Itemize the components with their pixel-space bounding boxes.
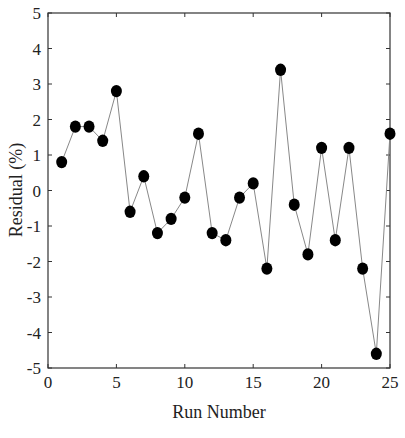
data-point — [193, 128, 204, 140]
data-point — [166, 213, 177, 225]
data-point — [289, 199, 300, 211]
data-point — [97, 135, 108, 147]
residual-chart: 543210-1-2-3-4-5 0510152025 Run Number R… — [0, 0, 405, 438]
data-point — [234, 191, 245, 203]
data-point — [261, 262, 272, 274]
y-tick-label: 3 — [33, 75, 42, 94]
y-tick-label: 5 — [33, 4, 42, 23]
x-tick-label: 25 — [382, 373, 399, 392]
data-point — [152, 227, 163, 239]
data-point — [70, 120, 81, 132]
y-tick-label: 2 — [33, 111, 42, 130]
data-point — [111, 85, 122, 97]
y-tick-label: 1 — [33, 146, 42, 165]
plot-frame — [48, 13, 390, 368]
residual-markers — [56, 64, 395, 360]
y-tick-label: -1 — [27, 217, 41, 236]
data-point — [138, 170, 149, 182]
y-tick-label: 4 — [33, 40, 42, 59]
data-point — [84, 120, 95, 132]
data-point — [385, 128, 396, 140]
x-tick-label: 0 — [44, 373, 53, 392]
data-point — [56, 156, 67, 168]
x-tick-label: 10 — [176, 373, 193, 392]
y-tick-label: -4 — [27, 324, 42, 343]
axes-box — [48, 13, 390, 368]
x-tick-label: 20 — [313, 373, 330, 392]
y-tick-label: -2 — [27, 253, 41, 272]
y-tick-label: 0 — [33, 182, 42, 201]
data-point — [125, 206, 136, 218]
x-axis-ticks: 0510152025 — [44, 13, 399, 392]
y-axis-ticks: 543210-1-2-3-4-5 — [27, 4, 390, 378]
data-point — [179, 191, 190, 203]
data-point — [343, 142, 354, 154]
series-polyline — [62, 70, 390, 354]
x-tick-label: 5 — [112, 373, 121, 392]
data-point — [330, 234, 341, 246]
residual-line — [62, 70, 390, 354]
data-point — [248, 177, 259, 189]
data-point — [357, 262, 368, 274]
data-point — [220, 234, 231, 246]
y-tick-label: -5 — [27, 359, 41, 378]
data-point — [207, 227, 218, 239]
x-tick-label: 15 — [245, 373, 262, 392]
data-point — [316, 142, 327, 154]
x-axis-title: Run Number — [172, 402, 266, 422]
y-tick-label: -3 — [27, 288, 41, 307]
data-point — [275, 64, 286, 76]
data-point — [371, 348, 382, 360]
y-axis-title: Residual (%) — [6, 143, 27, 237]
data-point — [302, 248, 313, 260]
